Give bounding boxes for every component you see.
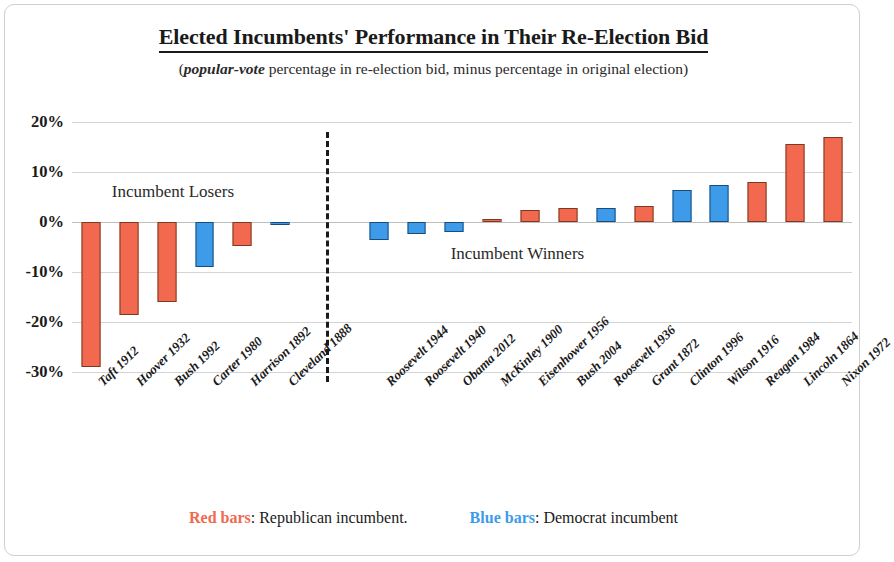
bar-slot: [110, 122, 148, 372]
y-axis-labels: 20%10%0%-10%-20%-30%: [0, 122, 64, 372]
legend: Red bars: Republican incumbent.Blue bars…: [0, 509, 867, 527]
legend-blue-text: : Democrat incumbent: [535, 509, 678, 526]
y-tick--20%: -20%: [2, 312, 64, 332]
legend-democrat: Blue bars: Democrat incumbent: [470, 509, 678, 527]
bar-slot: [72, 122, 110, 372]
bar-cleveland-1888[interactable]: [271, 222, 290, 225]
y-tick--30%: -30%: [2, 362, 64, 382]
bar-reagan-1984[interactable]: [748, 182, 767, 223]
bar-obama-2012[interactable]: [445, 222, 464, 232]
y-tick--10%: -10%: [2, 262, 64, 282]
legend-red-key: Red bars: [189, 509, 251, 526]
bar-slot: [186, 122, 224, 372]
bar-lincoln-1864[interactable]: [786, 144, 805, 222]
legend-republican: Red bars: Republican incumbent.: [189, 509, 408, 527]
bar-roosevelt-1944[interactable]: [369, 222, 388, 240]
x-axis-labels: Taft 1912Hoover 1932Bush 1992Carter 1980…: [0, 0, 780, 120]
legend-red-text: : Republican incumbent.: [251, 509, 408, 526]
legend-blue-key: Blue bars: [470, 509, 535, 526]
bar-clinton-1996[interactable]: [672, 190, 691, 222]
bar-taft-1912[interactable]: [81, 222, 100, 367]
y-tick-10%: 10%: [2, 162, 64, 182]
bar-roosevelt-1940[interactable]: [407, 222, 426, 234]
bar-mckinley-1900[interactable]: [483, 219, 502, 222]
bar-roosevelt-1936[interactable]: [596, 208, 615, 223]
bar-carter-1980[interactable]: [195, 222, 214, 267]
bar-harrison-1892[interactable]: [233, 222, 252, 246]
bar-eisenhower-1956[interactable]: [521, 210, 540, 222]
bar-hoover-1932[interactable]: [119, 222, 138, 315]
bar-bush-1992[interactable]: [157, 222, 176, 302]
annotation-incumbent-losers: Incumbent Losers: [112, 182, 234, 202]
bar-slot: [360, 122, 398, 372]
bar-wilson-1916[interactable]: [710, 185, 729, 223]
y-tick-0%: 0%: [2, 212, 64, 232]
bar-nixon-1972[interactable]: [824, 137, 843, 222]
bar-grant-1872[interactable]: [634, 206, 653, 222]
annotation-incumbent-winners: Incumbent Winners: [451, 244, 585, 264]
bar-bush-2004[interactable]: [559, 208, 578, 223]
